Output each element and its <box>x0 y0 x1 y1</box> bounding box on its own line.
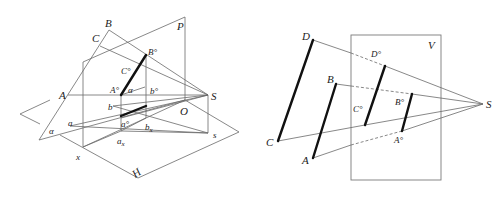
side-plane-wedge <box>20 100 50 124</box>
label-c0: C° <box>353 104 363 114</box>
segment-ab <box>313 84 336 158</box>
label-s: S <box>211 90 217 102</box>
label-x: x <box>75 152 80 162</box>
label-s-ground: s <box>213 130 217 140</box>
left-figure: B C P A S O B° C° A° b° α b a° bx a ax α… <box>20 17 239 180</box>
label-ax: ax <box>117 136 126 148</box>
segment-cd <box>278 40 313 141</box>
line-b-to-s <box>109 30 208 95</box>
label-a-ground: a <box>68 118 73 128</box>
label-p: P <box>176 20 184 32</box>
label-c0: C° <box>121 66 131 76</box>
label-a0-ground: a° <box>121 119 130 129</box>
label-h: H <box>129 165 144 181</box>
label-a0: A° <box>109 85 119 95</box>
label-a: A <box>58 89 66 101</box>
label-alpha-left: α <box>49 126 54 136</box>
label-c: C <box>266 136 274 148</box>
label-o: O <box>180 105 188 117</box>
picture-plane-v <box>351 35 441 180</box>
right-figure: D B C A V D° C° B° A° S <box>266 30 492 180</box>
label-b-ground: b <box>108 102 113 112</box>
diagram-canvas: B C P A S O B° C° A° b° α b a° bx a ax α… <box>0 0 502 198</box>
label-b0: B° <box>148 47 157 57</box>
label-bx: bx <box>145 122 154 134</box>
label-a0: A° <box>393 135 403 145</box>
label-b0-lower: b° <box>150 86 159 96</box>
label-b: B <box>327 73 334 85</box>
label-c: C <box>92 32 100 44</box>
label-b0: B° <box>395 97 404 107</box>
label-v: V <box>428 39 436 51</box>
segment-c0-d0 <box>365 66 385 125</box>
label-a: A <box>301 154 309 166</box>
label-s: S <box>486 98 492 110</box>
label-d: D <box>301 30 310 42</box>
label-d0: D° <box>370 49 381 59</box>
label-b: B <box>105 17 112 29</box>
label-alpha-top: α <box>128 85 133 95</box>
